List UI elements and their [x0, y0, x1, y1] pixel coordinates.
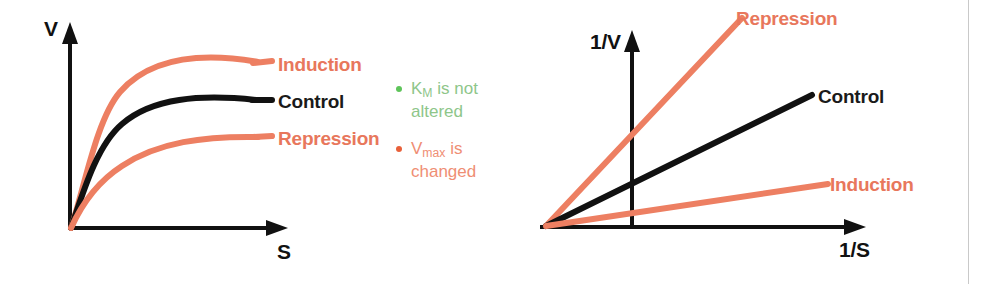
right-label-induction: Induction — [830, 174, 914, 196]
note-vmax-prefix: V — [411, 139, 422, 158]
note-km-line2: altered — [411, 101, 544, 122]
note-km-prefix: K — [411, 79, 422, 98]
note-km-rest: is not — [433, 79, 478, 98]
note-item-vmax: Vmax is changed — [394, 138, 544, 182]
left-axes — [62, 22, 288, 236]
lineweaver-burk-panel: 1/V 1/S Repression Control Induction — [540, 0, 986, 284]
left-label-control: Control — [278, 91, 344, 113]
curve-induction — [71, 58, 258, 228]
note-item-km: KM is not altered — [394, 78, 544, 122]
left-y-axis-label: V — [44, 17, 58, 41]
bullet-green-icon — [396, 86, 402, 92]
right-label-repression: Repression — [736, 8, 837, 30]
note-list: KM is not altered Vmax is changed — [394, 78, 544, 182]
annotations-panel: KM is not altered Vmax is changed — [380, 0, 540, 284]
left-label-induction: Induction — [278, 54, 362, 76]
page-edge-rule — [968, 0, 969, 284]
right-label-control: Control — [818, 86, 884, 108]
curve-control — [71, 98, 256, 228]
note-vmax-rest: is — [445, 139, 462, 158]
note-vmax-line2: changed — [411, 161, 544, 182]
michaelis-menten-panel: V S Induction Control Repression — [0, 0, 380, 284]
legend-dash-repression — [253, 136, 272, 137]
note-km-subscript: M — [422, 86, 432, 100]
legend-dash-induction — [253, 61, 272, 63]
note-vmax-subscript: max — [422, 146, 445, 160]
left-x-axis-label: S — [277, 240, 291, 264]
right-x-axis-label: 1/S — [839, 238, 870, 262]
line-repression — [546, 18, 742, 226]
figure-enzyme-kinetics: V S Induction Control Repression KM is n… — [0, 0, 986, 284]
right-y-axis-label: 1/V — [590, 30, 621, 54]
bullet-orange-icon — [396, 146, 402, 152]
left-label-repression: Repression — [278, 128, 379, 150]
